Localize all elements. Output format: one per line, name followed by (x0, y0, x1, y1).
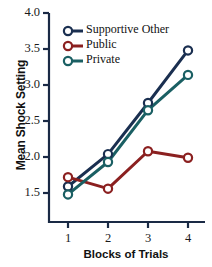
legend-marker-icon (62, 23, 84, 35)
data-point-marker (104, 185, 112, 193)
data-point-marker (144, 147, 152, 155)
series-line (68, 151, 188, 188)
chart-legend: Supportive OtherPublicPrivate (62, 22, 169, 67)
data-point-marker (64, 173, 72, 181)
data-point-marker (104, 158, 112, 166)
chart-container: Mean Shock Setting Blocks of Trials 1.52… (0, 0, 212, 267)
data-point-marker (144, 106, 152, 114)
data-point-marker (184, 154, 192, 162)
series-line (68, 50, 188, 186)
data-point-marker (184, 46, 192, 54)
legend-item: Supportive Other (62, 22, 169, 36)
legend-marker-icon (62, 53, 84, 65)
legend-item: Private (62, 52, 169, 66)
legend-label: Supportive Other (86, 22, 169, 37)
data-point-marker (64, 190, 72, 198)
data-point-marker (184, 71, 192, 79)
legend-label: Public (86, 37, 117, 52)
legend-item: Public (62, 37, 169, 51)
legend-marker-icon (62, 38, 84, 50)
legend-label: Private (86, 52, 120, 67)
series-line (68, 75, 188, 195)
